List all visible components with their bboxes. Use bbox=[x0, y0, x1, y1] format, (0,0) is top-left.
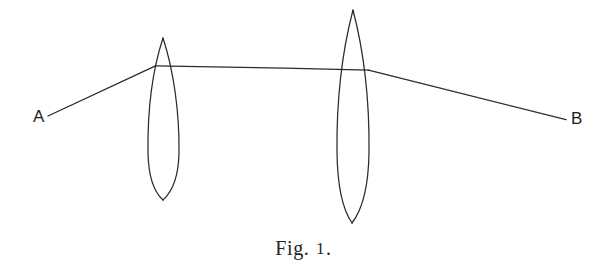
lens-left-surface-front bbox=[148, 38, 163, 200]
caption-fig-word: Fig. bbox=[275, 237, 309, 259]
figure-caption: Fig. 1. bbox=[0, 237, 607, 260]
lens-right-surface-back bbox=[352, 10, 369, 223]
lens-left-surface-back bbox=[163, 38, 179, 200]
point-label-a: A bbox=[33, 108, 45, 125]
caption-figure-number: 1 bbox=[315, 239, 326, 258]
parallel-ray-between-lenses bbox=[156, 66, 369, 70]
converging-lens-right bbox=[337, 10, 369, 223]
incident-ray-from-A bbox=[48, 66, 156, 116]
optical-diagram-svg bbox=[0, 0, 607, 268]
lens-right-surface-front bbox=[337, 10, 353, 223]
caption-terminator: . bbox=[326, 237, 332, 259]
figure-canvas: A B Fig. 1. bbox=[0, 0, 607, 268]
point-label-b: B bbox=[571, 110, 583, 127]
converging-lens-left bbox=[148, 38, 179, 200]
exit-ray-to-B bbox=[369, 70, 567, 119]
